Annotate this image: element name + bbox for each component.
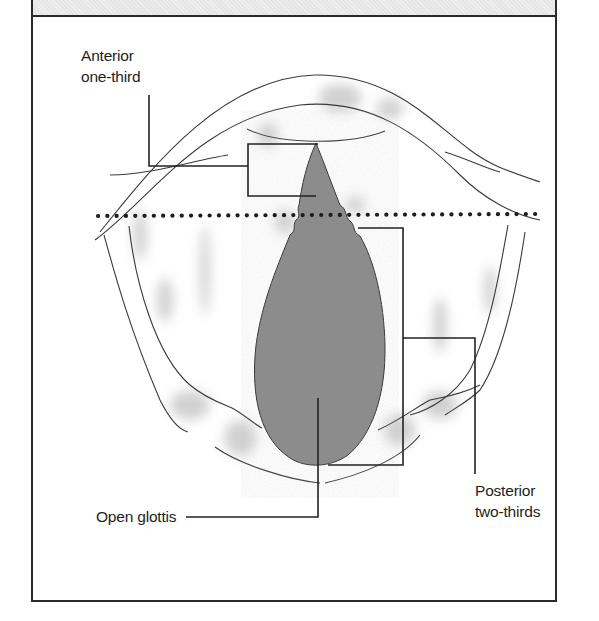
label-open-glottis: Open glottis <box>96 506 176 527</box>
label-posterior-line1: Posterior <box>475 480 540 501</box>
label-anterior-one-third: Anterior one-third <box>81 45 140 87</box>
label-open-glottis-text: Open glottis <box>96 506 176 527</box>
label-anterior-line2: one-third <box>81 66 140 87</box>
label-posterior-line2: two-thirds <box>475 501 540 522</box>
glottis-shape <box>254 143 385 465</box>
anterior-leader <box>149 95 248 166</box>
label-posterior-two-thirds: Posterior two-thirds <box>475 480 540 522</box>
label-anterior-line1: Anterior <box>81 45 140 66</box>
glottis-diagram <box>0 0 599 621</box>
